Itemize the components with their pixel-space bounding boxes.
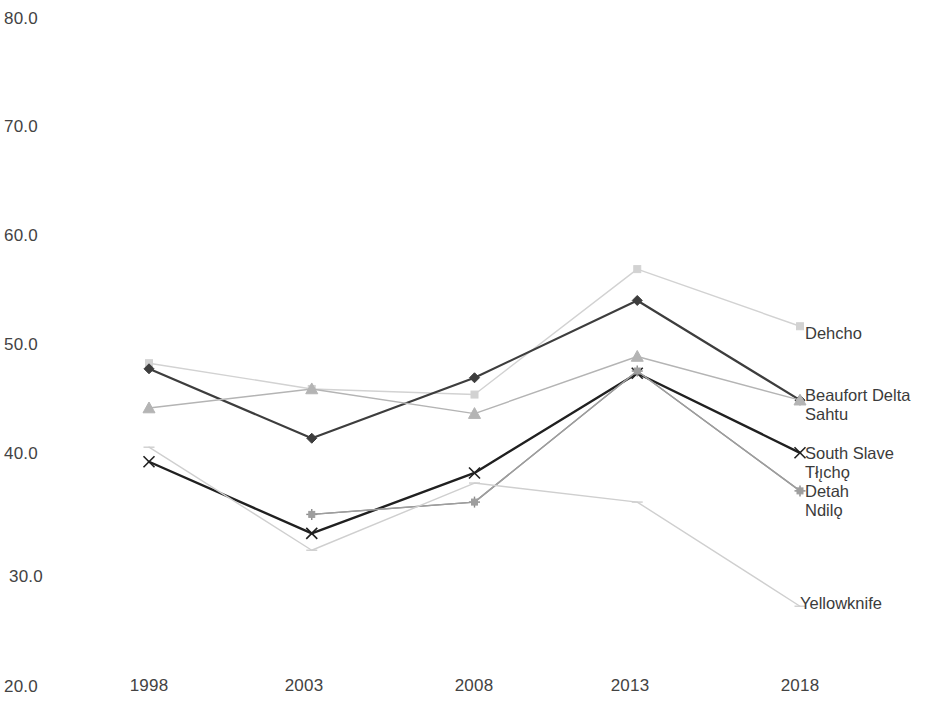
plot-area xyxy=(0,0,940,726)
series-detah-ndilo xyxy=(309,368,803,517)
series-label-tlicho: Tłı̨chǫ xyxy=(805,463,850,482)
series-tlicho xyxy=(306,366,805,520)
series-label-dehcho: Dehcho xyxy=(805,324,862,343)
line-chart: 80.0 70.0 60.0 50.0 40.0 30.0 20.0 1998 … xyxy=(0,0,940,726)
series-label-yellowknife: Yellowknife xyxy=(800,594,882,613)
series-label-detah: Detah xyxy=(805,482,849,501)
series-line xyxy=(149,447,800,606)
series-label-ndilo: Ndilǫ xyxy=(805,501,843,520)
series-label-beaufort-delta: Beaufort Delta xyxy=(805,386,910,405)
series-label-sahtu: Sahtu xyxy=(805,405,848,424)
series-label-south-slave: South Slave xyxy=(805,444,894,463)
series-yellowknife xyxy=(144,447,806,606)
